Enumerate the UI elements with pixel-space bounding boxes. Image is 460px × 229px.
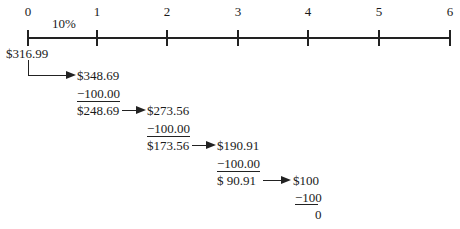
period-label-6: 6 xyxy=(447,4,454,20)
grown-balance-2: $273.56 xyxy=(147,104,189,117)
tick-6 xyxy=(449,30,451,46)
tick-4 xyxy=(307,30,309,46)
grown-balance-4: $100 xyxy=(293,174,319,187)
period-label-0: 0 xyxy=(25,4,32,20)
interest-rate-label: 10% xyxy=(52,16,76,32)
tick-1 xyxy=(96,30,98,46)
subtotal-rule xyxy=(147,136,190,137)
period-label-2: 2 xyxy=(164,4,171,20)
tick-5 xyxy=(378,30,380,46)
subtotal-rule xyxy=(77,101,120,102)
remaining-balance-2: $173.56 xyxy=(147,139,189,152)
payment-4: −100 xyxy=(295,191,322,204)
remaining-balance-1: $248.69 xyxy=(77,104,119,117)
tick-3 xyxy=(237,30,239,46)
payment-2: −100.00 xyxy=(147,122,190,135)
payment-3: −100.00 xyxy=(217,157,260,170)
grown-balance-3: $190.91 xyxy=(217,139,259,152)
remaining-balance-4: 0 xyxy=(315,208,322,221)
tick-0 xyxy=(27,30,29,46)
connector-line xyxy=(263,180,283,181)
tick-2 xyxy=(166,30,168,46)
timeline-axis xyxy=(27,37,450,39)
period-label-4: 4 xyxy=(305,4,312,20)
connector-line xyxy=(28,75,68,76)
subtotal-rule xyxy=(295,204,318,205)
arrow-right-icon xyxy=(136,106,146,114)
period-label-3: 3 xyxy=(235,4,242,20)
connector-line xyxy=(28,60,29,76)
grown-balance-1: $348.69 xyxy=(77,69,119,82)
arrow-right-icon xyxy=(206,141,216,149)
arrow-right-icon xyxy=(281,176,291,184)
arrow-right-icon xyxy=(66,71,76,79)
payment-1: −100.00 xyxy=(77,87,120,100)
remaining-balance-3: $ 90.91 xyxy=(217,174,256,187)
period-label-5: 5 xyxy=(376,4,383,20)
present-value: $316.99 xyxy=(6,47,48,60)
subtotal-rule xyxy=(217,171,260,172)
period-label-1: 1 xyxy=(94,4,101,20)
